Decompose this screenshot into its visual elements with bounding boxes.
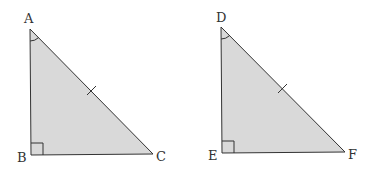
triangle-abc [30,29,153,155]
vertex-label-b: B [17,151,27,164]
vertex-label-e: E [208,149,218,162]
vertex-label-a: A [24,12,33,25]
triangle-def [221,27,345,153]
vertex-label-d: D [216,11,226,24]
congruent-triangles-figure [0,0,376,171]
vertex-label-c: C [156,150,166,163]
vertex-label-f: F [348,148,357,161]
